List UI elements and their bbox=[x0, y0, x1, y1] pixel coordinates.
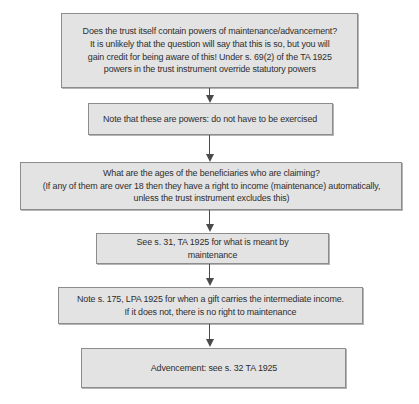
node-advancement: Advencement: see s. 32 TA 1925 bbox=[81, 348, 346, 388]
arrow-down-icon bbox=[209, 135, 211, 162]
node-text: Note s. 175, LPA 1925 for when a gift ca… bbox=[77, 293, 344, 318]
node-text: Advencement: see s. 32 TA 1925 bbox=[150, 362, 276, 375]
node-meaning-of-maintenance: See s. 31, TA 1925 for what is meant by … bbox=[96, 233, 329, 264]
node-powers-in-trust: Does the trust itself contain powers of … bbox=[61, 13, 358, 88]
node-intermediate-income: Note s. 175, LPA 1925 for when a gift ca… bbox=[58, 287, 363, 324]
node-powers-not-duties: Note that these are powers: do not have … bbox=[88, 103, 333, 135]
node-beneficiary-ages: What are the ages of the beneficiaries w… bbox=[20, 162, 402, 210]
arrow-down-icon bbox=[209, 88, 211, 103]
node-text: What are the ages of the beneficiaries w… bbox=[42, 167, 380, 205]
arrow-down-icon bbox=[209, 324, 211, 348]
node-text: See s. 31, TA 1925 for what is meant by … bbox=[111, 236, 315, 261]
arrow-down-icon bbox=[209, 264, 211, 287]
node-text: Does the trust itself contain powers of … bbox=[82, 25, 336, 75]
node-text: Note that these are powers: do not have … bbox=[103, 113, 317, 126]
arrow-down-icon bbox=[209, 210, 211, 233]
